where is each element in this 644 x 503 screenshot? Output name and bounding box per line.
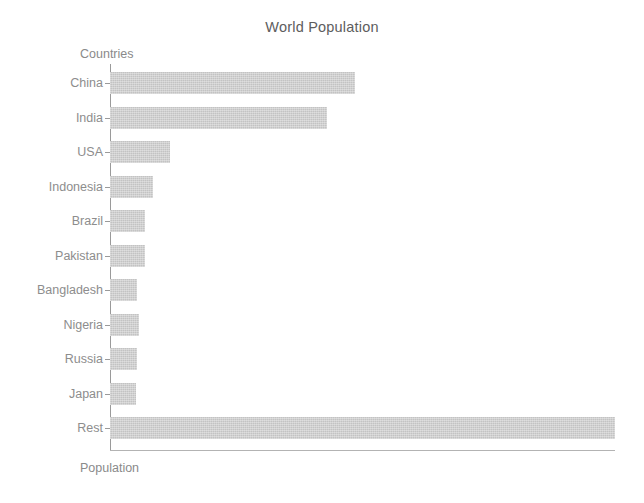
bar-russia[interactable] [110, 348, 137, 370]
y-tick-label-japan: Japan [0, 387, 103, 401]
y-tick-mark [105, 118, 110, 119]
bar-rest[interactable] [110, 417, 615, 439]
chart-figure: World Population Countries Population Ch… [0, 0, 644, 503]
y-tick-mark [105, 394, 110, 395]
bar-fill [110, 348, 137, 370]
bar-brazil[interactable] [110, 210, 145, 232]
y-tick-mark [105, 221, 110, 222]
y-tick-mark [105, 83, 110, 84]
bar-fill [110, 245, 145, 267]
bar-fill [110, 141, 170, 163]
bar-fill [110, 417, 615, 439]
y-axis-title: Countries [80, 47, 134, 61]
y-tick-label-indonesia: Indonesia [0, 180, 103, 194]
y-tick-mark [105, 187, 110, 188]
y-tick-label-bangladesh: Bangladesh [0, 283, 103, 297]
bar-india[interactable] [110, 107, 327, 129]
y-tick-label-usa: USA [0, 145, 103, 159]
bar-fill [110, 176, 153, 198]
y-tick-mark [105, 359, 110, 360]
bar-pakistan[interactable] [110, 245, 145, 267]
bar-japan[interactable] [110, 383, 136, 405]
chart-title: World Population [0, 19, 644, 35]
y-tick-mark [105, 290, 110, 291]
y-tick-label-rest: Rest [0, 421, 103, 435]
bar-china[interactable] [110, 72, 355, 94]
bar-indonesia[interactable] [110, 176, 153, 198]
bar-nigeria[interactable] [110, 314, 139, 336]
y-tick-label-brazil: Brazil [0, 214, 103, 228]
bar-fill [110, 210, 145, 232]
bar-fill [110, 314, 139, 336]
y-tick-mark [105, 256, 110, 257]
y-tick-mark [105, 428, 110, 429]
y-tick-label-nigeria: Nigeria [0, 318, 103, 332]
y-tick-mark [105, 325, 110, 326]
y-tick-label-china: China [0, 76, 103, 90]
y-tick-label-india: India [0, 111, 103, 125]
bar-fill [110, 279, 137, 301]
bar-bangladesh[interactable] [110, 279, 137, 301]
x-axis-title: Population [80, 461, 139, 475]
x-axis-line [110, 450, 615, 451]
bar-fill [110, 72, 355, 94]
y-tick-label-pakistan: Pakistan [0, 249, 103, 263]
y-tick-mark [105, 152, 110, 153]
bar-usa[interactable] [110, 141, 170, 163]
bar-fill [110, 383, 136, 405]
y-tick-label-russia: Russia [0, 352, 103, 366]
bar-fill [110, 107, 327, 129]
